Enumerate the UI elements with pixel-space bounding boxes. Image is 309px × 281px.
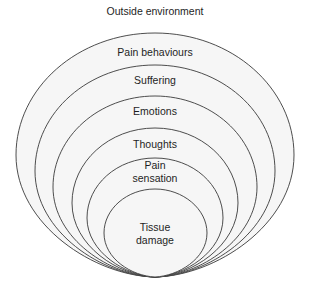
label-tissue-damage-line2: damage (136, 234, 174, 246)
label-tissue-damage-line1: Tissue (140, 221, 171, 233)
label-pain-sensation-line1: Pain (144, 159, 165, 171)
label-pain-behaviours: Pain behaviours (117, 46, 192, 58)
outside-environment-label: Outside environment (107, 5, 204, 17)
label-pain-sensation-line2: sensation (133, 172, 178, 184)
label-suffering: Suffering (134, 74, 176, 86)
label-thoughts: Thoughts (133, 138, 177, 150)
pain-onion-model-diagram: Outside environment Pain behaviours Suff… (0, 0, 309, 281)
label-emotions: Emotions (133, 105, 177, 117)
